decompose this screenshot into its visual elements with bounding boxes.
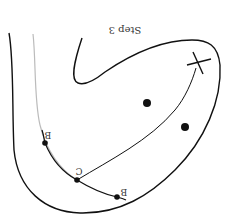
point-b-lower	[114, 194, 120, 200]
label-c: C	[75, 166, 82, 176]
dot-2	[181, 123, 189, 131]
dot-1	[143, 99, 151, 107]
label-b-lower: B	[120, 187, 127, 197]
c-to-x-line	[77, 68, 196, 180]
target-x-marker	[187, 52, 211, 74]
point-c	[74, 177, 80, 183]
step-diagram: Step 3 B C B	[0, 0, 244, 223]
bcb-path	[42, 130, 126, 200]
point-b-upper	[42, 140, 48, 146]
outer-boundary-curve	[9, 33, 220, 213]
label-b-upper: B	[44, 130, 51, 140]
step-title: Step 3	[109, 25, 142, 36]
inner-guide-curve	[33, 34, 77, 180]
